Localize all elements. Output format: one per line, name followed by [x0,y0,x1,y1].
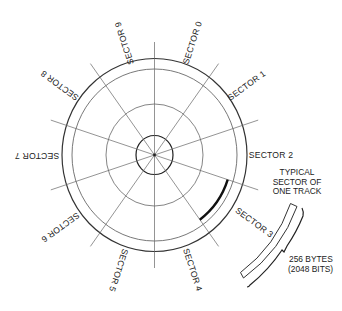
typical-sector-callout: TYPICAL SECTOR OF ONE TRACK [273,167,322,196]
sector-label-0: SECTOR 0 [181,20,204,65]
sector-label-1: SECTOR 1 [226,68,268,102]
callout-line-2: SECTOR OF [273,177,322,187]
highlighted-sector-arc [200,180,228,220]
callout-line-1: TYPICAL [280,167,315,177]
center-dot [153,154,156,157]
callout-line-3: ONE TRACK [273,186,322,196]
sector-label-6: SECTOR 6 [40,210,82,244]
size-note-bits: (2048 BITS) [288,264,333,274]
disk-sector-diagram: SECTOR 0 SECTOR 1 SECTOR 2 SECTOR 3 SECT… [0,0,342,311]
sector-label-9: SECTOR 9 [113,21,136,66]
sector-label-5: SECTOR 5 [107,248,130,293]
sector-label-2: SECTOR 2 [249,150,293,160]
sector-label-8: SECTOR 8 [39,68,81,102]
size-note-bytes: 256 BYTES [289,254,333,264]
sector-label-7: SECTOR 7 [15,151,59,161]
sector-label-4: SECTOR 4 [181,247,204,292]
sector-label-3: SECTOR 3 [234,205,276,239]
sector-size-note: 256 BYTES (2048 BITS) [288,254,333,274]
